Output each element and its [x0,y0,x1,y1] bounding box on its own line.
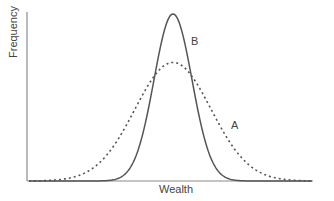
curve-a-label: A [231,119,238,131]
curve-a-dotted [29,62,312,180]
x-axis-label: Wealth [146,183,206,195]
curve-b-label: B [191,35,198,47]
chart-plot [0,0,334,201]
curve-b-solid [29,14,312,181]
y-axis-label: Frequency [7,2,19,62]
